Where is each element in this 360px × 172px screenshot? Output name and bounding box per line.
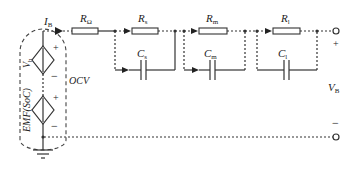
r-m-label: Rm xyxy=(205,12,219,26)
svg-text:Vh: Vh xyxy=(21,58,34,68)
r-l-resistor xyxy=(273,28,300,34)
circuit-diagram: + − + − EMF(SoC) Vh OCV − IB RΩ xyxy=(0,0,360,172)
emf-minus: − xyxy=(51,119,58,133)
r-s-resistor xyxy=(132,28,158,34)
r-m-resistor xyxy=(199,28,227,34)
terminal-positive xyxy=(333,28,339,34)
c-m-label: Cm xyxy=(204,47,217,61)
vb-label: VB xyxy=(328,81,340,95)
vh-sub: h xyxy=(26,58,34,62)
terminal-minus-label: − xyxy=(332,116,339,130)
vh-minus: − xyxy=(51,69,58,83)
vh-label-group: Vh xyxy=(21,58,34,68)
emf-label: EMF(SoC) xyxy=(21,87,33,133)
ocv-label: OCV xyxy=(69,75,91,86)
rl-arrow-icon xyxy=(265,28,272,34)
r-l-label: Rl xyxy=(280,12,290,26)
r-ohm-resistor xyxy=(72,28,98,34)
vh-plus: + xyxy=(53,42,59,53)
terminal-plus-label: + xyxy=(333,38,339,49)
cm-arrow-icon xyxy=(192,67,199,73)
r-s-label: Rs xyxy=(137,12,148,26)
c-l-label: Cl xyxy=(278,47,287,61)
emf-label-group: EMF(SoC) xyxy=(21,87,33,133)
rm-arrow-icon xyxy=(191,28,198,34)
emf-plus: + xyxy=(53,92,59,103)
c-s-label: Cs xyxy=(137,47,147,61)
current-arrow-icon xyxy=(55,27,63,35)
current-label: IB xyxy=(43,15,53,29)
cs-arrow-icon xyxy=(122,67,129,73)
r-ohm-label: RΩ xyxy=(79,12,92,26)
rs-arrow-icon xyxy=(124,28,131,34)
terminal-negative xyxy=(333,134,339,140)
